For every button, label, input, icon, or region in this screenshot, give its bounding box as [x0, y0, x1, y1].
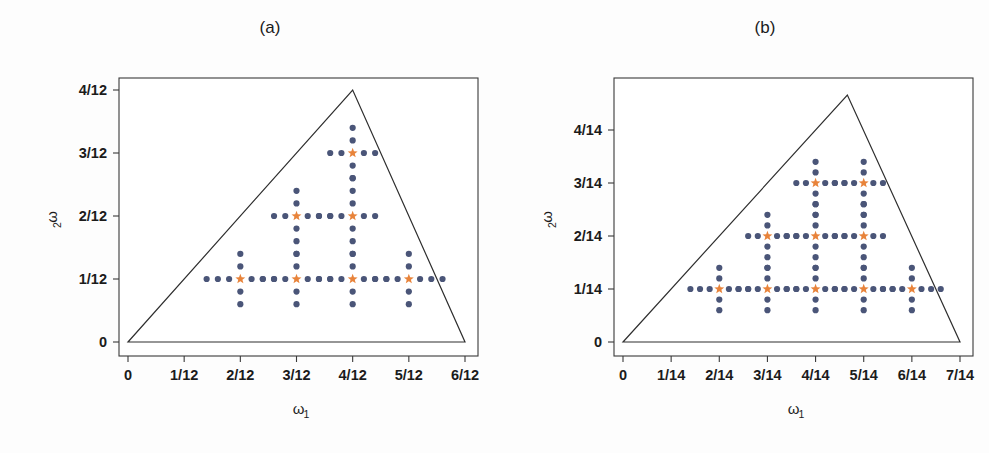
data-point-dot — [899, 286, 905, 292]
data-point-dot — [350, 289, 356, 295]
x-tick-label: 1/14 — [657, 367, 685, 383]
data-point-dot — [293, 188, 299, 194]
y-axis-title-group: ω2 — [538, 211, 558, 228]
data-point-dot — [716, 307, 722, 313]
data-point-dot — [350, 175, 356, 181]
data-point-dot — [812, 265, 818, 271]
data-point-dot — [764, 307, 770, 313]
data-point-dot — [851, 233, 857, 239]
x-tick-label: 2/14 — [705, 367, 733, 383]
x-tick-label: 5/14 — [850, 367, 878, 383]
data-point-dot — [890, 286, 896, 292]
data-point-dot — [841, 233, 847, 239]
data-point-dot — [909, 265, 915, 271]
data-point-dot — [338, 213, 344, 219]
y-tick-label: 2/12 — [79, 208, 107, 224]
panel-a-plot: 01/122/123/124/125/126/1201/122/123/124/… — [0, 0, 494, 453]
data-point-dot — [861, 222, 867, 228]
data-point-dot — [697, 286, 703, 292]
data-point-dot — [687, 286, 693, 292]
data-point-dot — [812, 275, 818, 281]
data-point-dot — [395, 276, 401, 282]
data-point-dot — [851, 180, 857, 186]
data-point-dot — [812, 297, 818, 303]
data-point-dot — [774, 233, 780, 239]
data-point-dot — [784, 286, 790, 292]
y-tick-label: 1/14 — [574, 281, 602, 297]
data-point-dot — [707, 286, 713, 292]
data-point-dot — [841, 286, 847, 292]
y-tick-label: 4/14 — [574, 122, 602, 138]
data-point-dot — [880, 233, 886, 239]
data-point-dot — [248, 276, 254, 282]
data-point-dot — [861, 159, 867, 165]
x-tick-label: 7/14 — [946, 367, 974, 383]
data-point-dot — [237, 251, 243, 257]
panel-a: (a) 01/122/123/124/125/126/1201/122/123/… — [0, 0, 494, 453]
data-point-dot — [764, 297, 770, 303]
x-tick-label: 6/14 — [898, 367, 926, 383]
x-axis-title-subscript: 1 — [799, 408, 805, 420]
data-point-dot — [880, 286, 886, 292]
data-point-dot — [755, 286, 761, 292]
data-point-dot — [928, 286, 934, 292]
data-point-dot — [822, 233, 828, 239]
data-point-dot — [918, 286, 924, 292]
data-point-dot — [793, 180, 799, 186]
y-axis-title-subscript: 2 — [51, 222, 63, 228]
panel-b-plot: 01/142/143/144/145/146/147/1401/142/143/… — [495, 0, 989, 453]
data-point-dot — [383, 276, 389, 282]
data-point-dot — [406, 289, 412, 295]
data-point-dot — [428, 276, 434, 282]
data-point-dot — [350, 251, 356, 257]
data-point-dot — [338, 150, 344, 156]
data-point-dot — [439, 276, 445, 282]
data-point-dot — [204, 276, 210, 282]
data-point-dot — [271, 213, 277, 219]
x-tick-label: 4/12 — [339, 367, 367, 383]
data-point-dot — [237, 263, 243, 269]
y-tick-label: 1/12 — [79, 271, 107, 287]
data-point-dot — [880, 180, 886, 186]
data-point-dot — [237, 289, 243, 295]
data-point-dot — [316, 276, 322, 282]
data-point-dot — [406, 263, 412, 269]
data-point-dot — [812, 159, 818, 165]
data-point-dot — [832, 180, 838, 186]
data-point-dot — [260, 276, 266, 282]
data-point-dot — [764, 222, 770, 228]
x-tick-label: 3/14 — [753, 367, 781, 383]
data-point-dot — [793, 286, 799, 292]
data-point-dot — [832, 233, 838, 239]
data-point-dot — [909, 297, 915, 303]
data-point-dot — [861, 201, 867, 207]
data-point-dot — [271, 276, 277, 282]
data-point-dot — [350, 263, 356, 269]
data-point-dot — [372, 213, 378, 219]
data-point-dot — [350, 226, 356, 232]
data-point-dot — [861, 244, 867, 250]
data-point-dot — [764, 254, 770, 260]
data-point-dot — [812, 222, 818, 228]
data-point-dot — [745, 286, 751, 292]
data-point-dot — [293, 301, 299, 307]
data-point-dot — [774, 286, 780, 292]
data-point-dot — [764, 275, 770, 281]
data-point-dot — [282, 213, 288, 219]
data-point-dot — [350, 238, 356, 244]
data-point-dot — [226, 276, 232, 282]
data-point-dot — [870, 180, 876, 186]
data-point-dot — [861, 254, 867, 260]
data-point-dot — [909, 275, 915, 281]
data-point-dot — [812, 169, 818, 175]
data-point-dot — [338, 276, 344, 282]
y-axis-title-subscript: 2 — [546, 222, 558, 228]
data-point-dot — [861, 297, 867, 303]
data-point-dot — [861, 307, 867, 313]
x-tick-label: 4/14 — [801, 367, 829, 383]
data-point-dot — [716, 265, 722, 271]
x-tick-label: 6/12 — [451, 367, 479, 383]
data-point-dot — [406, 301, 412, 307]
data-point-dot — [282, 276, 288, 282]
data-point-dot — [361, 150, 367, 156]
